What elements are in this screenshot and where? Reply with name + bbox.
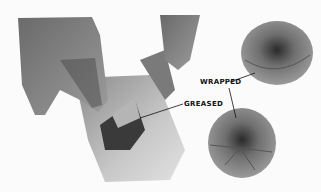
wrapped-ball-bottom: [208, 108, 276, 178]
wrapped-ball-top: [241, 21, 313, 85]
photo-figure: WRAPPED GREASED: [0, 0, 321, 192]
left-hand: [18, 17, 108, 115]
greased-label: GREASED: [184, 100, 223, 108]
wrapped-label: WRAPPED: [200, 78, 241, 86]
photo-illustration: [0, 0, 321, 192]
